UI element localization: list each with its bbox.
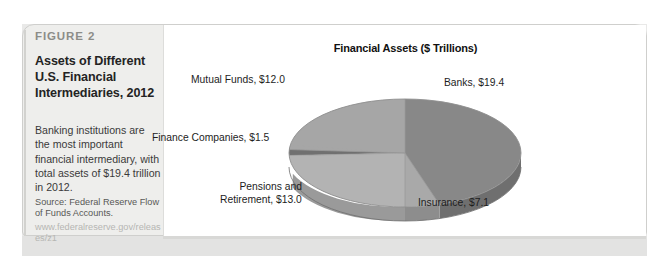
- figure-source-url[interactable]: www.federalreserve.gov/releases/z1: [35, 222, 163, 245]
- pie-label-pensions-line1: Pensions and: [239, 181, 301, 192]
- figure-number-label: FIGURE 2: [35, 30, 95, 42]
- pie-label-finance-companies: Finance Companies, $1.5: [152, 132, 269, 145]
- chart-panel: Financial Assets ($ Trillions): [163, 25, 646, 236]
- pie-label-pensions-line2: Retirement, $13.0: [220, 194, 302, 205]
- pie-slice-mutual-funds[interactable]: [285, 85, 405, 153]
- pie-top-face: [285, 85, 525, 207]
- pie-label-insurance: Insurance, $7.1: [418, 197, 489, 210]
- pie-slice-pensions-retirement[interactable]: [288, 153, 405, 207]
- pie-label-pensions-retirement: Pensions and Retirement, $13.0: [220, 181, 302, 206]
- page-title: Assets of Different U.S. Financial Inter…: [35, 53, 159, 102]
- pie-label-mutual-funds: Mutual Funds, $12.0: [191, 74, 285, 87]
- figure-caption-column: FIGURE 2 Assets of Different U.S. Financ…: [24, 26, 161, 235]
- pie-slice-banks[interactable]: [405, 85, 525, 153]
- chart-panel-shadow: [163, 236, 646, 239]
- caption-vertical-rule: [24, 30, 26, 236]
- figure-description: Banking institutions are the most import…: [35, 123, 161, 194]
- figure-screenshot: FIGURE 2 Assets of Different U.S. Financ…: [0, 0, 669, 269]
- pie-label-banks: Banks, $19.4: [444, 77, 504, 90]
- figure-source: Source: Federal Reserve Flow of Funds Ac…: [35, 197, 163, 220]
